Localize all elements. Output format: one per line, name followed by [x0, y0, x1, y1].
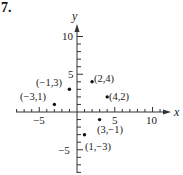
point-label-neg3-1: (−3,1) [20, 91, 47, 103]
point-label-1-neg3: (1,−3) [85, 141, 112, 153]
problem-number: 7. [1, 0, 12, 15]
point-3-neg1 [98, 118, 101, 121]
y-axis-label: y [71, 9, 78, 23]
point-1-neg3 [83, 133, 86, 136]
x-axis [16, 107, 166, 112]
point-label-4-2: (4,2) [109, 91, 130, 103]
y-tick-label-neg5: −5 [58, 144, 70, 156]
x-axis-arrow-icon [163, 110, 171, 115]
point-label-3-neg1: (3,−1) [97, 124, 124, 136]
scatter-plot: 7. x y −5 5 10 10 5 −5 (−3,1) (−1,3) (2,… [0, 0, 183, 175]
x-tick-label-10: 10 [146, 114, 158, 126]
y-tick-label-5: 5 [68, 68, 74, 80]
x-tick-label-neg5: −5 [33, 114, 45, 126]
y-axis-arrow-icon [75, 24, 80, 32]
point-label-neg1-3: (−1,3) [36, 77, 63, 89]
point-neg1-3 [68, 88, 71, 91]
point-label-2-4: (2,4) [94, 73, 115, 85]
y-tick-label-10: 10 [62, 30, 74, 42]
y-axis [77, 30, 83, 173]
point-neg3-1 [53, 103, 56, 106]
x-axis-label: x [173, 105, 180, 119]
